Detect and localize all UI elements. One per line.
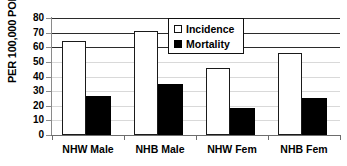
y-tick-label: 80 <box>20 13 44 23</box>
category-label: NHW Fem <box>196 142 268 156</box>
y-tick-label: 70 <box>20 28 44 38</box>
category-label: NHW Male <box>52 142 124 156</box>
bar-incidence-nhw-male <box>62 41 87 135</box>
y-axis-title: PER 100,000 POP. <box>3 0 21 97</box>
bar-chart: PER 100,000 POP. 01020304050607080 NHW M… <box>0 0 347 166</box>
y-tick-mark <box>46 62 51 63</box>
y-tick-mark <box>46 120 51 121</box>
y-tick-mark <box>46 18 51 19</box>
y-tick-label: 10 <box>20 115 44 125</box>
legend-label-mortality: Mortality <box>186 39 230 50</box>
legend-swatch-mortality-icon <box>174 40 182 48</box>
legend-label-incidence: Incidence <box>186 24 234 35</box>
y-tick-label: 60 <box>20 42 44 52</box>
y-tick-label: 20 <box>20 101 44 111</box>
x-tick-mark <box>268 135 269 140</box>
legend-entry-incidence: Incidence <box>174 22 234 36</box>
x-tick-mark <box>124 135 125 140</box>
bar-mortality-nhb-fem <box>302 98 327 135</box>
bar-incidence-nhw-fem <box>206 68 231 135</box>
y-tick-label: 30 <box>20 86 44 96</box>
legend-swatch-incidence-icon <box>174 25 182 33</box>
category-label: NHB Male <box>124 142 196 156</box>
y-tick-mark <box>46 77 51 78</box>
bar-incidence-nhb-fem <box>278 53 303 135</box>
y-tick-label: 40 <box>20 72 44 82</box>
y-tick-label: 0 <box>20 130 44 140</box>
x-tick-mark <box>196 135 197 140</box>
bar-incidence-nhb-male <box>134 31 159 135</box>
x-tick-mark <box>52 135 53 140</box>
x-tick-mark <box>340 135 341 140</box>
y-tick-mark <box>46 135 51 136</box>
y-tick-mark <box>46 33 51 34</box>
y-tick-mark <box>46 91 51 92</box>
bar-mortality-nhw-male <box>86 96 111 135</box>
legend-entry-mortality: Mortality <box>174 37 230 51</box>
y-tick-mark <box>46 47 51 48</box>
bar-mortality-nhw-fem <box>230 108 255 135</box>
y-tick-mark <box>46 106 51 107</box>
category-label: NHB Fem <box>268 142 340 156</box>
bar-mortality-nhb-male <box>158 84 183 135</box>
chart-legend: Incidence Mortality <box>168 18 244 54</box>
y-tick-label: 50 <box>20 57 44 67</box>
